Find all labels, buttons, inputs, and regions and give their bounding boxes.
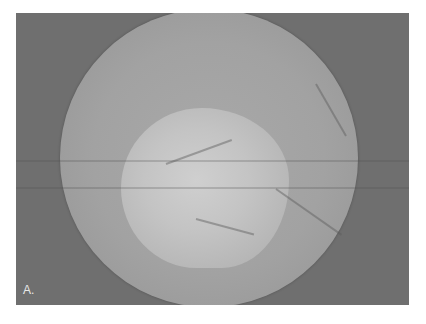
panel-label: A. [23,283,34,297]
scan-line [16,160,409,162]
scan-line [16,187,409,189]
figure-photo: A. [16,13,409,305]
